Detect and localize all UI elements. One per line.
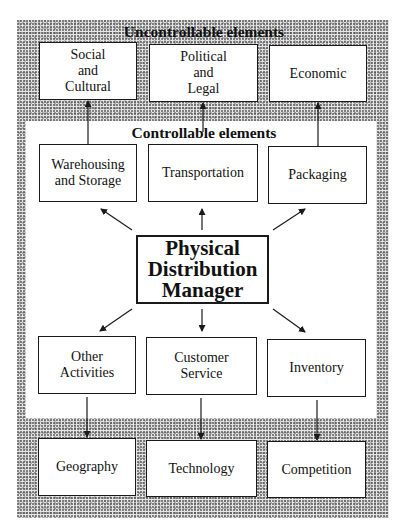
box-economic: Economic — [269, 45, 367, 102]
box-label: Other Activities — [60, 349, 114, 381]
box-label: Customer Service — [174, 350, 228, 382]
box-geography: Geography — [38, 438, 136, 496]
box-competition: Competition — [267, 441, 366, 498]
box-warehousing-and-storage: Warehousing and Storage — [39, 144, 137, 202]
center-box-label: Physical Distribution Manager — [148, 238, 258, 301]
box-label: Geography — [56, 459, 118, 475]
box-label: Political and Legal — [180, 49, 227, 97]
box-label: Technology — [169, 461, 235, 477]
box-label: Economic — [290, 66, 347, 82]
box-transportation: Transportation — [148, 144, 258, 202]
box-customer-service: Customer Service — [146, 337, 257, 395]
box-label: Social and Cultural — [65, 47, 111, 95]
box-political-and-legal: Political and Legal — [149, 44, 258, 102]
box-technology: Technology — [146, 440, 257, 497]
box-packaging: Packaging — [268, 146, 367, 204]
box-label: Transportation — [162, 165, 244, 181]
box-other-activities: Other Activities — [38, 336, 136, 394]
box-social-and-cultural: Social and Cultural — [39, 42, 137, 100]
box-label: Competition — [282, 462, 352, 478]
box-label: Packaging — [288, 167, 346, 183]
box-inventory: Inventory — [267, 339, 366, 397]
box-label: Warehousing and Storage — [51, 157, 125, 189]
uncontrollable-elements-title: Uncontrollable elements — [104, 23, 304, 41]
box-label: Inventory — [289, 360, 343, 376]
controllable-elements-title: Controllable elements — [104, 124, 304, 142]
box-physical-distribution-manager: Physical Distribution Manager — [136, 235, 269, 304]
